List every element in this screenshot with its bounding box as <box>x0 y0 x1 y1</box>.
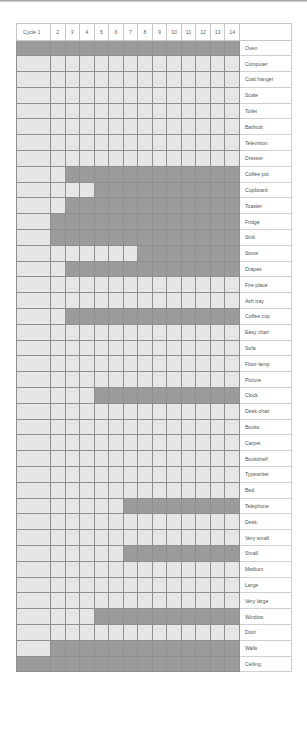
active-cell <box>123 498 138 514</box>
active-cell <box>167 214 182 230</box>
row-label: Door <box>239 624 291 640</box>
inactive-cell <box>94 372 109 388</box>
cycle-activation-grid: Cycle 1234567891011121314OvenComputerCoa… <box>16 23 292 672</box>
cycle-header: 4 <box>80 24 95 41</box>
active-cell <box>152 498 167 514</box>
inactive-cell <box>210 403 225 419</box>
cycle-header: 11 <box>181 24 196 41</box>
inactive-cell <box>65 435 80 451</box>
active-cell <box>210 261 225 277</box>
active-cell <box>138 198 153 214</box>
active-cell <box>138 498 153 514</box>
inactive-cell <box>167 324 182 340</box>
row-label: Telephone <box>239 498 291 514</box>
inactive-cell <box>152 324 167 340</box>
inactive-cell <box>17 530 51 546</box>
inactive-cell <box>65 482 80 498</box>
inactive-cell <box>152 135 167 151</box>
row-label: Coffee cup <box>239 309 291 325</box>
inactive-cell <box>138 151 153 167</box>
inactive-cell <box>17 245 51 261</box>
active-cell <box>123 182 138 198</box>
active-cell <box>65 40 80 56</box>
grid-row: Cupboard <box>17 182 292 198</box>
inactive-cell <box>109 135 124 151</box>
inactive-cell <box>181 530 196 546</box>
inactive-cell <box>80 498 95 514</box>
active-cell <box>152 198 167 214</box>
inactive-cell <box>181 151 196 167</box>
inactive-cell <box>17 419 51 435</box>
inactive-cell <box>94 245 109 261</box>
inactive-cell <box>123 561 138 577</box>
active-cell <box>225 656 240 672</box>
inactive-cell <box>123 87 138 103</box>
inactive-cell <box>17 135 51 151</box>
inactive-cell <box>152 514 167 530</box>
inactive-cell <box>138 372 153 388</box>
inactive-cell <box>51 324 66 340</box>
active-cell <box>196 388 211 404</box>
inactive-cell <box>65 87 80 103</box>
row-label: Large <box>239 577 291 593</box>
cycle-header: 5 <box>94 24 109 41</box>
grid-row: Typewriter <box>17 467 292 483</box>
inactive-cell <box>210 482 225 498</box>
inactive-cell <box>109 498 124 514</box>
row-label: Oven <box>239 40 291 56</box>
inactive-cell <box>17 151 51 167</box>
row-label: Toilet <box>239 103 291 119</box>
inactive-cell <box>210 135 225 151</box>
inactive-cell <box>225 577 240 593</box>
grid-row: Television <box>17 135 292 151</box>
inactive-cell <box>123 356 138 372</box>
active-cell <box>65 640 80 656</box>
active-cell <box>210 182 225 198</box>
inactive-cell <box>80 546 95 562</box>
active-cell <box>210 198 225 214</box>
active-cell <box>181 309 196 325</box>
inactive-cell <box>152 372 167 388</box>
inactive-cell <box>109 356 124 372</box>
inactive-cell <box>181 119 196 135</box>
grid-row: Carpet <box>17 435 292 451</box>
row-label: Typewriter <box>239 467 291 483</box>
active-cell <box>210 546 225 562</box>
active-cell <box>80 166 95 182</box>
inactive-cell <box>51 245 66 261</box>
inactive-cell <box>109 451 124 467</box>
active-cell <box>152 609 167 625</box>
inactive-cell <box>196 72 211 88</box>
inactive-cell <box>181 577 196 593</box>
inactive-cell <box>51 403 66 419</box>
active-cell <box>196 498 211 514</box>
inactive-cell <box>196 151 211 167</box>
active-cell <box>225 182 240 198</box>
inactive-cell <box>152 403 167 419</box>
inactive-cell <box>167 356 182 372</box>
inactive-cell <box>210 324 225 340</box>
row-label: Window <box>239 609 291 625</box>
inactive-cell <box>80 577 95 593</box>
grid-row: Walls <box>17 640 292 656</box>
active-cell <box>181 182 196 198</box>
inactive-cell <box>51 561 66 577</box>
inactive-cell <box>80 609 95 625</box>
active-cell <box>51 230 66 246</box>
inactive-cell <box>152 356 167 372</box>
inactive-cell <box>94 577 109 593</box>
row-label: Very small <box>239 530 291 546</box>
inactive-cell <box>17 482 51 498</box>
inactive-cell <box>17 166 51 182</box>
inactive-cell <box>80 293 95 309</box>
inactive-cell <box>17 640 51 656</box>
active-cell <box>225 245 240 261</box>
active-cell <box>65 214 80 230</box>
inactive-cell <box>109 624 124 640</box>
active-cell <box>181 546 196 562</box>
inactive-cell <box>80 514 95 530</box>
inactive-cell <box>80 277 95 293</box>
inactive-cell <box>17 309 51 325</box>
inactive-cell <box>51 514 66 530</box>
inactive-cell <box>94 356 109 372</box>
